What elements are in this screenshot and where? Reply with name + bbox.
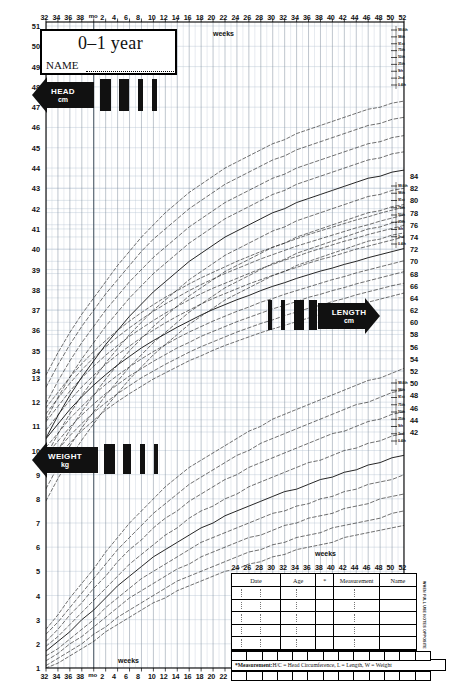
left-axis-head-42: 42 [20, 205, 40, 214]
record-cell-date[interactable] [232, 587, 280, 600]
length-banner: LENGTH cm [318, 303, 380, 329]
percentile-label: 0.4th [398, 83, 406, 87]
top-axis-unit-label: weeks [213, 30, 234, 37]
mid-axis-tick-30: 30 [267, 563, 275, 572]
table-row[interactable] [232, 637, 416, 650]
record-cell-star[interactable] [316, 624, 334, 637]
left-axis-head-37: 37 [20, 306, 40, 315]
bottom-axis-tick-36: 36 [64, 672, 72, 681]
percentile-label: 0.4th [398, 242, 406, 246]
left-axis-weight-12: 12 [20, 398, 40, 407]
percentile-label: 98th [398, 388, 405, 392]
record-cell-age[interactable] [280, 637, 315, 650]
percentile-label: 50th [398, 410, 405, 414]
top-axis-tick-12: 12 [160, 13, 168, 22]
left-axis-weight-6: 6 [20, 543, 40, 552]
record-cell-star[interactable] [316, 612, 334, 625]
table-row[interactable] [232, 624, 416, 637]
side-note: WHEN FULL USE NOTES OPPOSITE [418, 578, 430, 652]
record-cell-age[interactable] [280, 587, 315, 600]
top-axis-tick-8: 8 [136, 13, 140, 22]
record-cell-measurement[interactable] [334, 624, 380, 637]
record-cell-measurement[interactable] [334, 612, 380, 625]
left-axis-weight-4: 4 [20, 592, 40, 601]
page-title: 0–1 year [42, 33, 179, 54]
record-cell-name[interactable] [379, 587, 416, 600]
head-banner-text: HEAD cm [32, 82, 94, 108]
length-banner-text: LENGTH cm [318, 303, 380, 329]
column-header-age: Age [280, 574, 315, 587]
record-cell-measurement[interactable] [334, 637, 380, 650]
top-axis-tick-38: 38 [315, 13, 323, 22]
right-axis-length-46: 46 [410, 404, 432, 413]
record-cell-name[interactable] [379, 637, 416, 650]
table-row[interactable] [232, 599, 416, 612]
name-field-label: NAME [46, 59, 78, 71]
head-banner-line1: HEAD [51, 88, 75, 96]
mid-axis-tick-26: 26 [243, 563, 251, 572]
mid-axis-tick-40: 40 [327, 563, 335, 572]
top-axis-tick-28: 28 [255, 13, 263, 22]
record-cell-measurement[interactable] [334, 599, 380, 612]
record-cell-age[interactable] [280, 599, 315, 612]
top-axis-tick-24: 24 [231, 13, 239, 22]
record-cell-date[interactable] [232, 599, 280, 612]
right-axis-length-76: 76 [410, 221, 432, 230]
head-banner-line2: cm [58, 96, 68, 103]
top-axis-tick-36: 36 [64, 13, 72, 22]
record-cell-name[interactable] [379, 612, 416, 625]
record-cell-age[interactable] [280, 624, 315, 637]
left-axis-weight-7: 7 [20, 519, 40, 528]
bottom-axis-tick-22: 22 [220, 672, 228, 681]
right-axis-length-62: 62 [410, 306, 432, 315]
record-cell-star[interactable] [316, 637, 334, 650]
record-cell-star[interactable] [316, 587, 334, 600]
record-cell-age[interactable] [280, 612, 315, 625]
table-row[interactable] [232, 587, 416, 600]
record-cell-name[interactable] [379, 624, 416, 637]
left-axis-weight-13: 13 [20, 374, 40, 383]
record-cell-date[interactable] [232, 637, 280, 650]
record-cell-date[interactable] [232, 624, 280, 637]
bottom-axis-tick-18: 18 [196, 672, 204, 681]
perforation-strip-bottom [231, 671, 431, 681]
mid-axis-tick-38: 38 [315, 563, 323, 572]
left-axis-head-44: 44 [20, 164, 40, 173]
record-cell-name[interactable] [379, 599, 416, 612]
bottom-axis-tick-38: 38 [76, 672, 84, 681]
percentile-label: 91st [398, 42, 405, 46]
top-axis-tick-32: 32 [279, 13, 287, 22]
right-axis-length-44: 44 [410, 416, 432, 425]
top-axis-tick-40: 40 [327, 13, 335, 22]
percentile-label: 98th [398, 191, 405, 195]
mid-axis-tick-32: 32 [279, 563, 287, 572]
record-cell-star[interactable] [316, 599, 334, 612]
left-axis-head-39: 39 [20, 266, 40, 275]
right-axis-length-56: 56 [410, 343, 432, 352]
bottom-axis-tick-34: 34 [52, 672, 60, 681]
table-row[interactable] [232, 612, 416, 625]
bottom-axis-tick-4: 4 [112, 672, 116, 681]
top-axis-tick-4: 4 [112, 13, 116, 22]
bottom-axis-tick-10: 10 [148, 672, 156, 681]
name-input-line[interactable] [86, 71, 174, 72]
bottom-axis-tick-32: 32 [41, 672, 49, 681]
left-axis-weight-9: 9 [20, 471, 40, 480]
mid-axis-tick-50: 50 [387, 563, 395, 572]
right-axis-length-48: 48 [410, 391, 432, 400]
right-axis-length-74: 74 [410, 233, 432, 242]
mid-axis-tick-36: 36 [303, 563, 311, 572]
percentile-label: 99.6th [398, 381, 408, 385]
percentile-label: 0.4th [398, 439, 406, 443]
weight-banner-text: WEIGHT kg [32, 447, 98, 473]
mid-axis-tick-24: 24 [231, 563, 239, 572]
footnote-star-prefix: *Measurement: [235, 662, 273, 668]
right-axis-length-54: 54 [410, 355, 432, 364]
record-cell-measurement[interactable] [334, 587, 380, 600]
left-axis-head-47: 47 [20, 103, 40, 112]
right-axis-length-58: 58 [410, 330, 432, 339]
record-cell-date[interactable] [232, 612, 280, 625]
weight-banner: WEIGHT kg [32, 447, 98, 473]
right-axis-length-50: 50 [410, 379, 432, 388]
measurement-record-table[interactable]: Date Age * Measurement Name [231, 573, 417, 651]
